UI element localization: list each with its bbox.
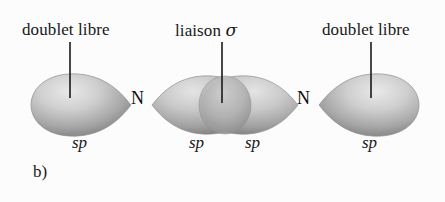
sigma-symbol: σ bbox=[225, 20, 237, 40]
atom-label-nitrogen-left: N bbox=[131, 88, 144, 109]
orbital-diagram-figure: doublet libre liaison σ doublet libre N … bbox=[0, 0, 445, 202]
callout-label-sigma-bond: liaison σ bbox=[175, 20, 237, 41]
sp-lobe-lone-pair-right bbox=[319, 74, 419, 136]
callout-text-liaison: liaison bbox=[175, 21, 225, 40]
hybrid-label-sp-bond-left: sp bbox=[189, 133, 204, 153]
hybrid-label-sp-bond-right: sp bbox=[245, 133, 260, 153]
atom-label-nitrogen-right: N bbox=[297, 88, 310, 109]
callout-label-lone-pair-left: doublet libre bbox=[22, 20, 110, 40]
panel-caption: b) bbox=[33, 162, 47, 182]
sp-lobe-lone-pair-left bbox=[31, 74, 131, 136]
callout-label-lone-pair-right: doublet libre bbox=[322, 20, 410, 40]
sigma-overlap-region bbox=[199, 76, 251, 134]
hybrid-label-sp-lone-pair-left: sp bbox=[72, 133, 87, 153]
hybrid-label-sp-lone-pair-right: sp bbox=[362, 133, 377, 153]
